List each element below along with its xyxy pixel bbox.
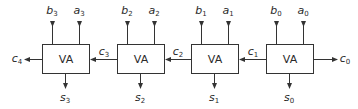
input-arrow-icon <box>77 21 82 27</box>
input-label-b0: b0 <box>270 5 281 18</box>
input-label-a0-base: a <box>297 4 304 17</box>
carry-arrow-icon <box>165 57 171 62</box>
input-label-b1: b1 <box>195 5 206 18</box>
input-label-b1-subscript: 1 <box>202 10 206 18</box>
output-arrow-icon <box>138 83 143 89</box>
input-label-a0: a0 <box>297 5 308 18</box>
carry-arrow-icon <box>24 57 30 62</box>
input-label-b3-subscript: 3 <box>53 10 57 18</box>
input-arrow-icon <box>226 21 231 27</box>
output-label-s3-subscript: 3 <box>66 97 70 105</box>
output-label-s1-subscript: 1 <box>215 97 219 105</box>
input-label-a2-base: a <box>148 4 155 17</box>
carry-label-c0-subscript: 0 <box>346 58 350 66</box>
output-label-s0-subscript: 0 <box>290 97 294 105</box>
input-label-b1-base: b <box>195 4 202 17</box>
input-arrow-icon <box>152 21 157 27</box>
output-label-s0: s0 <box>284 92 294 105</box>
carry-arrow-icon <box>239 57 245 62</box>
carry-label-c2: c2 <box>173 46 184 59</box>
carry-label-c1-subscript: 1 <box>254 51 258 59</box>
input-label-b0-subscript: 0 <box>277 10 281 18</box>
output-label-s2-subscript: 2 <box>141 97 145 105</box>
input-label-a3-base: a <box>73 4 80 17</box>
input-arrow-icon <box>199 21 204 27</box>
adder-block-label: VA <box>59 53 73 66</box>
output-label-s2: s2 <box>135 92 145 105</box>
input-label-b0-base: b <box>270 4 277 17</box>
input-label-a2: a2 <box>148 5 159 18</box>
input-label-a2-subscript: 2 <box>155 10 159 18</box>
input-label-a3-subscript: 3 <box>80 10 84 18</box>
input-label-b2: b2 <box>121 5 132 18</box>
carry-label-c0: c0 <box>340 53 351 66</box>
carry-label-c2-subscript: 2 <box>179 51 183 59</box>
carry-in-arrow-icon <box>332 57 338 62</box>
input-label-a1: a1 <box>222 5 233 18</box>
input-label-b2-base: b <box>121 4 128 17</box>
carry-label-c3: c3 <box>99 46 110 59</box>
input-label-a0-subscript: 0 <box>304 10 308 18</box>
carry-label-c4: c4 <box>12 53 23 66</box>
input-label-a1-base: a <box>222 4 229 17</box>
input-label-b2-subscript: 2 <box>128 10 132 18</box>
input-arrow-icon <box>50 21 55 27</box>
output-arrow-icon <box>63 83 68 89</box>
carry-label-c4-subscript: 4 <box>18 58 22 66</box>
output-label-s1: s1 <box>209 92 219 105</box>
carry-label-c3-subscript: 3 <box>105 51 109 59</box>
input-label-a3: a3 <box>73 5 84 18</box>
output-label-s3: s3 <box>60 92 70 105</box>
output-arrow-icon <box>287 83 292 89</box>
adder-block-label: VA <box>283 53 297 66</box>
input-arrow-icon <box>125 21 130 27</box>
input-label-b3: b3 <box>46 5 57 18</box>
adder-block-label: VA <box>208 53 222 66</box>
output-arrow-icon <box>212 83 217 89</box>
input-label-b3-base: b <box>46 4 53 17</box>
carry-label-c1: c1 <box>248 46 259 59</box>
adder-block-label: VA <box>134 53 148 66</box>
input-label-a1-subscript: 1 <box>229 10 233 18</box>
input-arrow-icon <box>274 21 279 27</box>
ripple-carry-adder-diagram: VAb3a3s3VAb2a2s2VAb1a1s1VAb0a0s0c4c3c2c1… <box>0 0 358 109</box>
carry-arrow-icon <box>90 57 96 62</box>
input-arrow-icon <box>301 21 306 27</box>
